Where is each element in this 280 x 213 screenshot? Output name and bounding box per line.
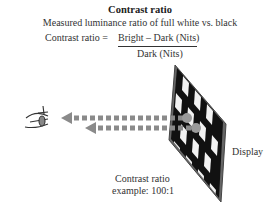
display-label: Display bbox=[232, 146, 263, 157]
eye-icon bbox=[25, 106, 48, 128]
dashes bbox=[74, 116, 183, 121]
example-label-line2: example: 100:1 bbox=[112, 185, 174, 196]
example-label-line1: Contrast ratio bbox=[115, 173, 170, 184]
display-panel bbox=[169, 65, 226, 202]
